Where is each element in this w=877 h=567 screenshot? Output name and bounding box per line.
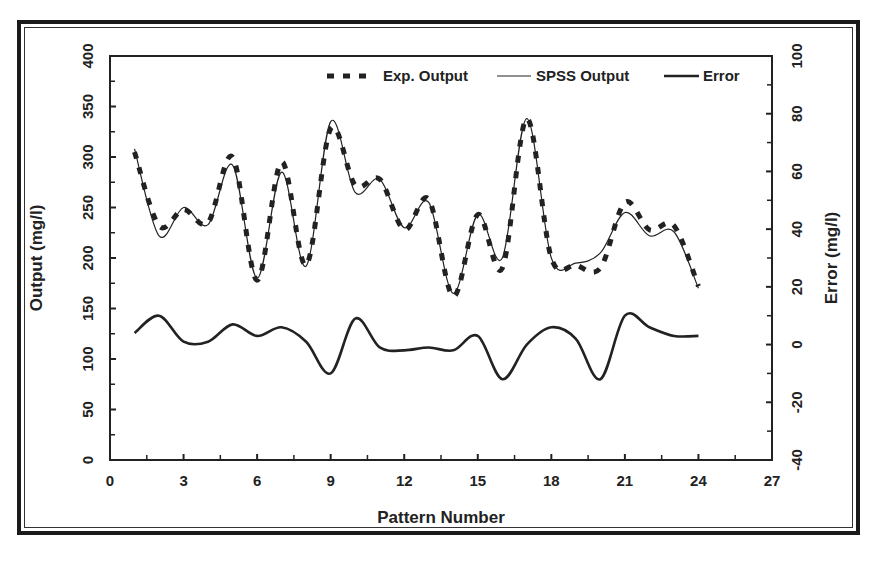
x-tick-label: 6 (253, 472, 261, 489)
y2-tick-label: -40 (788, 449, 805, 471)
series-exp-output (135, 119, 699, 297)
caption-fragment (0, 548, 877, 567)
y-tick-label: 150 (79, 296, 96, 321)
y2-tick-label: 80 (788, 105, 805, 122)
y-tick-label: 200 (79, 245, 96, 270)
y2-tick-label: -20 (788, 391, 805, 413)
x-tick-label: 15 (469, 472, 486, 489)
legend-label-error: Error (703, 67, 740, 84)
series-error (135, 313, 699, 379)
axis-ticks: 050100150200250300350400-40-200204060801… (79, 43, 805, 489)
line-chart: 050100150200250300350400-40-200204060801… (0, 0, 877, 567)
y2-tick-label: 100 (788, 43, 805, 68)
x-axis-title: Pattern Number (377, 508, 505, 527)
data-series (135, 119, 699, 380)
y-tick-label: 300 (79, 144, 96, 169)
y2-axis-title: Error (mg/l) (822, 212, 841, 305)
legend: Exp. OutputSPSS OutputError (327, 67, 740, 84)
y2-tick-label: 60 (788, 163, 805, 180)
y-axis-title: Output (mg/l) (27, 205, 46, 312)
x-tick-label: 9 (326, 472, 334, 489)
x-tick-label: 3 (179, 472, 187, 489)
y-tick-label: 50 (79, 401, 96, 418)
y-tick-label: 250 (79, 195, 96, 220)
y2-tick-label: 0 (788, 340, 805, 348)
y2-tick-label: 40 (788, 221, 805, 238)
y-tick-label: 0 (79, 456, 96, 464)
x-tick-label: 0 (106, 472, 114, 489)
x-tick-label: 24 (690, 472, 707, 489)
series-spss-output (135, 119, 699, 294)
y2-tick-label: 20 (788, 279, 805, 296)
x-tick-label: 27 (764, 472, 781, 489)
y-tick-label: 400 (79, 43, 96, 68)
x-tick-label: 21 (617, 472, 634, 489)
legend-label-exp-output: Exp. Output (383, 67, 468, 84)
x-tick-label: 12 (396, 472, 413, 489)
y-tick-label: 100 (79, 346, 96, 371)
x-tick-label: 18 (543, 472, 560, 489)
legend-label-spss-output: SPSS Output (536, 67, 629, 84)
y-tick-label: 350 (79, 94, 96, 119)
